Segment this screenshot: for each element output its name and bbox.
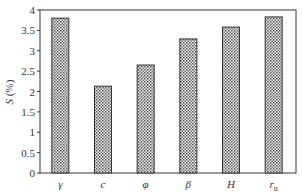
x-category-label: γ	[58, 178, 63, 190]
y-tick-label: 0.5	[21, 147, 35, 159]
bar	[180, 39, 197, 173]
y-tick-label: 1.5	[21, 106, 35, 118]
y-tick-label: 3	[30, 45, 36, 57]
bar	[265, 17, 282, 173]
plot-area	[40, 10, 296, 173]
bar	[223, 27, 240, 173]
bar	[137, 65, 154, 173]
y-tick-label: 1	[30, 126, 36, 138]
y-tick-label: 4	[30, 4, 36, 16]
bar	[52, 18, 69, 173]
x-category-label: φ	[143, 178, 149, 190]
y-axis-title: S (%)	[3, 79, 16, 104]
x-category-label: c	[101, 178, 106, 190]
bar-chart: 00.511.522.533.54 γcφβHru S (%)	[0, 0, 303, 196]
y-tick-label: 2.5	[21, 65, 35, 77]
bar	[95, 86, 112, 173]
x-axis-labels: γcφβHru	[58, 178, 278, 193]
y-tick-label: 0	[30, 167, 36, 179]
y-tick-label: 3.5	[21, 24, 35, 36]
x-category-label: ru	[270, 178, 278, 193]
x-category-label: β	[185, 178, 192, 190]
x-category-label: H	[226, 178, 236, 190]
y-axis: 00.511.522.533.54	[21, 4, 40, 179]
bars-group	[52, 17, 282, 173]
y-tick-label: 2	[30, 86, 36, 98]
